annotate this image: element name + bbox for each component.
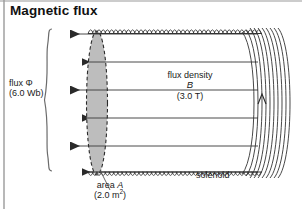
solenoid-label: solenoid xyxy=(196,170,230,180)
area-value-close: ) xyxy=(123,190,126,200)
cross-section-area xyxy=(70,31,110,175)
solenoid-bottom-winding xyxy=(88,172,262,176)
flux-density-value: (3.0 T) xyxy=(153,91,227,101)
diagram-canvas xyxy=(0,0,302,209)
flux-density-label: flux density B (3.0 T) xyxy=(153,70,227,101)
magnetic-flux-figure: Magnetic flux flux Φ (6.0 Wb) flux densi… xyxy=(0,0,302,209)
flux-density-symbol: B xyxy=(153,80,227,91)
coil-turns-top xyxy=(88,30,261,34)
figure-title: Magnetic flux xyxy=(10,3,98,18)
flux-bracket xyxy=(45,29,53,171)
flux-label-name: flux Φ xyxy=(9,78,33,88)
flux-label-value: (6.0 Wb) xyxy=(9,88,44,98)
area-value: (2.0 m2) xyxy=(75,190,145,200)
area-value-number: (2.0 m xyxy=(94,190,120,200)
solenoid-right-end-turns xyxy=(242,28,290,178)
flux-label: flux Φ (6.0 Wb) xyxy=(9,78,44,98)
solenoid-top-winding xyxy=(88,30,262,34)
area-label: area A (2.0 m2) xyxy=(75,180,145,200)
area-label-name: area xyxy=(97,180,118,190)
